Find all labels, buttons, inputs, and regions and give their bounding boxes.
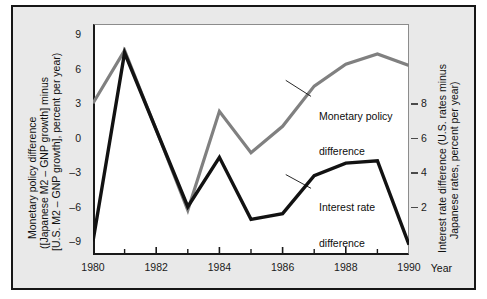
left-tick-label-0: 0 bbox=[13, 133, 81, 144]
right-tick-mark bbox=[411, 172, 418, 174]
annotation-interest-rate-difference: Interest rate difference bbox=[319, 179, 375, 273]
left-tick-label-3: 3 bbox=[13, 98, 81, 109]
plot-area-wrapper: Monetary policy difference Interest rate… bbox=[93, 24, 409, 255]
x-tick-label-1988: 1988 bbox=[334, 261, 357, 273]
right-tick-label-4: 4 bbox=[421, 167, 427, 178]
right-tick-label-6: 6 bbox=[421, 133, 427, 144]
left-tick-label-neg3: –3 bbox=[13, 167, 81, 178]
right-tick-mark bbox=[411, 207, 418, 209]
annotation-monetary-line1: Monetary policy bbox=[319, 111, 393, 123]
right-axis-caption-line2: Japanese rates, percent per year) bbox=[449, 81, 461, 239]
x-tick-label-1984: 1984 bbox=[208, 261, 231, 273]
annotation-leader-monetary bbox=[286, 80, 311, 96]
chart-figure: Monetary policy difference ([Japanese M2… bbox=[0, 0, 487, 299]
x-tick-label-1980: 1980 bbox=[81, 261, 104, 273]
left-tick-label-9: 9 bbox=[13, 29, 81, 40]
right-tick-mark bbox=[411, 138, 418, 140]
left-axis-caption-line3: [U.S. M2 – GNP growth], percent per year… bbox=[51, 53, 63, 251]
annotation-monetary-line2: difference bbox=[319, 146, 393, 158]
chart-frame: Monetary policy difference ([Japanese M2… bbox=[11, 5, 476, 290]
left-tick-label-neg9: –9 bbox=[13, 236, 81, 247]
x-axis-caption: Year bbox=[431, 262, 452, 274]
right-tick-label-8: 8 bbox=[421, 98, 427, 109]
x-tick-label-1990: 1990 bbox=[397, 261, 420, 273]
annotation-interest-line1: Interest rate bbox=[319, 202, 375, 214]
annotation-interest-line2: difference bbox=[319, 238, 375, 250]
right-tick-mark bbox=[411, 103, 418, 105]
annotation-monetary-policy-difference: Monetary policy difference bbox=[319, 87, 393, 181]
right-axis-caption-line1: Interest rate difference (U.S. rates min… bbox=[437, 64, 449, 253]
x-tick-label-1982: 1982 bbox=[145, 261, 168, 273]
right-tick-label-2: 2 bbox=[421, 202, 427, 213]
x-tick-label-1986: 1986 bbox=[271, 261, 294, 273]
left-tick-label-neg6: –6 bbox=[13, 202, 81, 213]
left-tick-label-6: 6 bbox=[13, 64, 81, 75]
